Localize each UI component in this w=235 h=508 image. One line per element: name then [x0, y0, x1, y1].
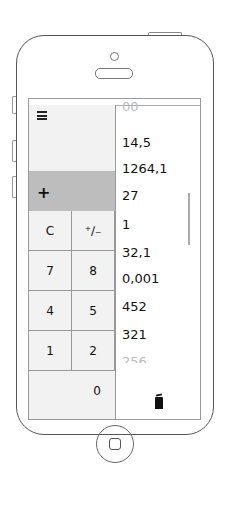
home-square-icon: [109, 438, 121, 450]
history-item[interactable]: 27: [122, 188, 139, 203]
history-item[interactable]: 321: [122, 327, 147, 342]
key-clear[interactable]: C: [29, 211, 72, 251]
history-item-partial-top[interactable]: 00: [122, 99, 139, 114]
front-camera: [110, 52, 119, 61]
operator-symbol: +: [37, 183, 50, 202]
key-2[interactable]: 2: [72, 331, 115, 371]
operator-display: +: [29, 171, 115, 211]
history-item[interactable]: 1264,1: [122, 161, 168, 176]
key-4[interactable]: 4: [29, 291, 72, 331]
key-8[interactable]: 8: [72, 251, 115, 291]
earpiece-speaker: [95, 68, 133, 79]
history-list[interactable]: 00 14,5 1264,1 27 1 32,1 0,001 452 321 2…: [115, 105, 200, 419]
key-5[interactable]: 5: [72, 291, 115, 331]
history-item[interactable]: 32,1: [122, 245, 151, 260]
history-item[interactable]: 452: [122, 299, 147, 314]
app-screen: + C ⁺∕₋ 7 8 4 5 1 2 0 00 14,5 1264,1 27 …: [28, 98, 201, 420]
key-plus-minus[interactable]: ⁺∕₋: [72, 211, 115, 251]
history-item[interactable]: 0,001: [122, 271, 159, 286]
key-0[interactable]: 0: [29, 371, 115, 411]
hamburger-icon[interactable]: [37, 111, 47, 122]
home-button[interactable]: [96, 425, 134, 463]
history-item-partial[interactable]: 256: [122, 354, 147, 363]
history-item[interactable]: 14,5: [122, 135, 151, 150]
history-item[interactable]: 1: [122, 217, 130, 232]
key-1[interactable]: 1: [29, 331, 72, 371]
trash-icon[interactable]: [155, 397, 163, 409]
key-7[interactable]: 7: [29, 251, 72, 291]
keypad-panel: + C ⁺∕₋ 7 8 4 5 1 2 0: [29, 105, 115, 419]
scrollbar[interactable]: [188, 193, 190, 245]
